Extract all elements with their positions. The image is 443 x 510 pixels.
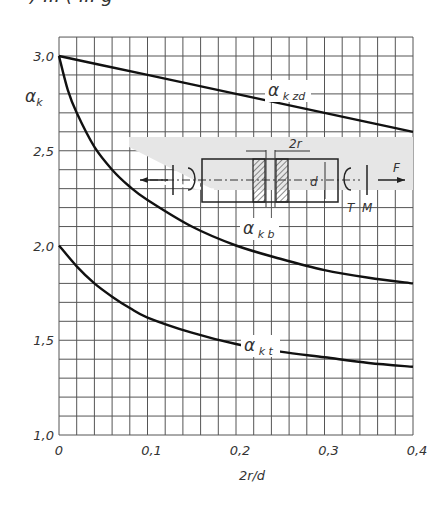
x-tick-label: 0,1 (141, 443, 162, 458)
hatch-left (253, 159, 265, 202)
hatch-right (276, 159, 288, 202)
x-tick-label: 0,3 (318, 443, 339, 458)
x-tick-label: 0,4 (407, 443, 428, 458)
header-fragment: ) ... ( ... g (28, 0, 113, 6)
stress-concentration-chart: 2rdFTM α k zdα k bα k t1,01,52,02,53,000… (0, 0, 443, 510)
y-tick-label: 2,5 (33, 144, 54, 159)
label-M: M (362, 201, 373, 215)
y-axis-label: αk (25, 86, 43, 109)
label-d: d (310, 175, 318, 189)
label-F: F (393, 161, 401, 175)
label-2r: 2r (289, 137, 303, 151)
x-axis-label: 2r/d (239, 468, 266, 483)
inset-background (129, 137, 413, 190)
y-tick-label: 1,0 (33, 428, 54, 443)
x-tick-label: 0 (55, 443, 63, 458)
arrow-left-head (140, 177, 148, 183)
y-tick-label: 1,5 (33, 333, 54, 348)
grid (59, 37, 413, 435)
y-tick-label: 2,0 (33, 239, 54, 254)
y-tick-label: 3,0 (33, 49, 54, 64)
x-tick-label: 0,2 (230, 443, 251, 458)
